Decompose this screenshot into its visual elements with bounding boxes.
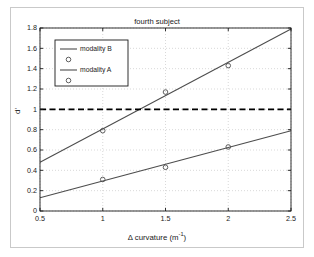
y-tick-label: 1.6	[16, 45, 37, 52]
x-tick-label: 2	[216, 215, 240, 222]
x-axis-label-prefix: Δ curvature (m	[128, 233, 179, 242]
y-tick-label: 0	[16, 207, 37, 214]
y-tick-label: 1.8	[16, 24, 37, 31]
data-point-marker	[163, 165, 168, 170]
y-tick-label: 1	[16, 106, 37, 113]
data-point-marker	[163, 90, 168, 95]
x-tick-label: 2.5	[279, 215, 303, 222]
x-tick-label: 0.5	[28, 215, 52, 222]
y-tick-label: 0.8	[16, 126, 37, 133]
y-tick-label: 1.4	[16, 65, 37, 72]
y-tick-label: 1.2	[16, 85, 37, 92]
y-tick-label: 0.6	[16, 146, 37, 153]
x-axis-label: Δ curvature (m-1)	[0, 232, 314, 241]
x-tick-label: 1.5	[154, 215, 178, 222]
x-tick-label: 1	[91, 215, 115, 222]
x-axis-label-suffix: )	[184, 233, 187, 242]
legend-label: modality B	[80, 46, 112, 53]
legend-label: modality A	[80, 67, 111, 74]
y-tick-label: 0.2	[16, 187, 37, 194]
y-tick-label: 0.4	[16, 167, 37, 174]
page-title: fourth subject	[0, 18, 314, 26]
